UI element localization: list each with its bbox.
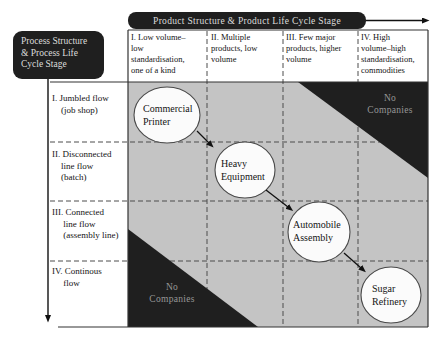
product-structure-banner-label: Product Structure & Product Life Cycle S… <box>153 16 341 26</box>
row-header-2: II. Disconnected line flow (batch) <box>52 149 128 184</box>
bubble-label-heavy-equipment: Heavy Equipment <box>221 158 279 183</box>
product-process-matrix-diagram: Product Structure & Product Life Cycle S… <box>0 0 439 340</box>
row-header-3: III. Connected line flow (assembly line) <box>52 207 128 242</box>
column-header-4: IV. High volume–high standardisation, co… <box>361 32 427 76</box>
row-header-1: I. Jumbled flow (job shop) <box>52 93 128 116</box>
column-header-1: I. Low volume– low standardisation, one … <box>131 32 205 76</box>
row-header-4: IV. Continous flow <box>52 266 128 289</box>
column-header-2: II. Multiple products, low volume <box>211 32 281 65</box>
product-structure-banner: Product Structure & Product Life Cycle S… <box>128 12 366 29</box>
bubble-label-automobile-assembly: Automobile Assembly <box>293 219 351 244</box>
no-companies-label-bottom-left: No Companies <box>134 281 210 306</box>
process-structure-banner: Process Structure & Process Life Cycle S… <box>13 31 104 79</box>
no-companies-label-top-right: No Companies <box>352 92 428 117</box>
column-header-3: III. Few major products, higher volume <box>286 32 356 65</box>
bubble-label-commercial-printer: Commercial Printer <box>143 103 201 128</box>
bubble-label-sugar-refinery: Sugar Refinery <box>372 283 430 308</box>
